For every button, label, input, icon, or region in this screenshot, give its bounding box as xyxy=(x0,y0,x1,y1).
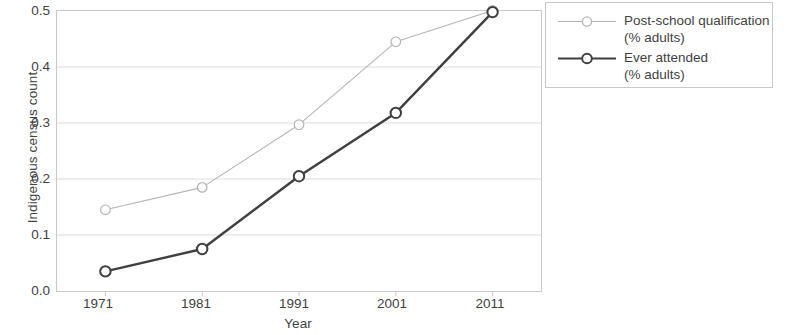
legend-entry-ever-attended: Ever attended (% adults) xyxy=(556,49,708,83)
data-point-marker xyxy=(197,183,207,193)
legend-line-sample-icon xyxy=(556,50,618,67)
y-axis-tick-labels: 0.5 0.4 0.3 0.2 0.1 0.0 xyxy=(10,0,50,335)
data-point-marker xyxy=(197,244,207,254)
data-point-marker xyxy=(487,7,497,17)
chart-figure: Indigenous census count 0.5 0.4 0.3 0.2 … xyxy=(0,0,786,335)
y-tick-label: 0.4 xyxy=(16,60,50,74)
legend-label: Post-school qualification (% adults) xyxy=(624,12,770,46)
legend-line-sample-icon xyxy=(556,13,618,30)
legend: Post-school qualification (% adults) Eve… xyxy=(545,2,773,88)
x-tick-label: 2011 xyxy=(460,296,520,311)
x-tick-label: 2001 xyxy=(362,296,422,311)
series-line xyxy=(105,12,492,271)
data-point-marker xyxy=(391,108,401,118)
data-series xyxy=(100,7,498,277)
series-layer xyxy=(100,6,498,277)
data-point-marker xyxy=(294,171,304,181)
data-point-marker xyxy=(391,37,401,47)
y-tick-label: 0.5 xyxy=(16,4,50,18)
legend-entry-post-school-qualification: Post-school qualification (% adults) xyxy=(556,12,770,46)
x-tick-label: 1991 xyxy=(264,296,324,311)
data-point-marker xyxy=(101,205,111,215)
y-tick-label: 0.1 xyxy=(16,228,50,242)
y-tick-label: 0.2 xyxy=(16,172,50,186)
legend-label: Ever attended (% adults) xyxy=(624,49,708,83)
plot-canvas xyxy=(57,11,541,291)
x-tick-label: 1981 xyxy=(166,296,226,311)
x-axis-tick-labels: 1971 1981 1991 2001 2011 xyxy=(0,296,786,320)
x-axis-title: Year xyxy=(268,316,328,331)
x-tick-label: 1971 xyxy=(68,296,128,311)
data-point-marker xyxy=(294,120,304,130)
data-point-marker xyxy=(100,266,110,276)
data-series xyxy=(101,6,498,215)
y-tick-label: 0.3 xyxy=(16,116,50,130)
gridlines xyxy=(57,67,541,235)
plot-area xyxy=(56,10,542,292)
